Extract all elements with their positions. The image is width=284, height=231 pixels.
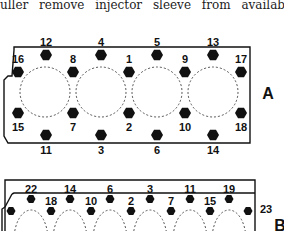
bolt-sequence-number: 17 (235, 53, 247, 65)
bolt-sequence-number: 14 (207, 144, 220, 156)
bolt-sequence-number: 23 (260, 203, 272, 215)
bolt-icon (207, 130, 219, 140)
bolt-icon (151, 130, 163, 140)
bolt-icon (244, 207, 253, 215)
cylinder-bore (20, 67, 70, 117)
bolt-sequence-number: 2 (128, 195, 134, 207)
bolt-icon (40, 130, 52, 140)
bolt-sequence-number: 11 (40, 144, 52, 156)
bolt-sequence-number: 18 (45, 195, 57, 207)
bolt-icon (87, 207, 96, 215)
cylinder-bore (188, 67, 238, 117)
bolt-icon (106, 195, 115, 203)
cylinder-bore (76, 67, 126, 117)
bolt-icon (127, 207, 136, 215)
bolt-icon (7, 207, 16, 215)
cylinder-bore (14, 210, 48, 231)
bolt-sequence-number: 5 (154, 36, 160, 48)
bolt-icon (12, 67, 24, 77)
bolt-sequence-number: 14 (64, 183, 77, 195)
bolt-sequence-number: 1 (126, 53, 132, 65)
bolt-sequence-number: 16 (12, 53, 24, 65)
bolt-icon (67, 108, 79, 118)
bolt-sequence-number: 18 (235, 121, 247, 133)
cylinder-head-bolt-sequence-diagram: 124513168191715721018113614 A 2214631119… (0, 0, 284, 231)
cylinder-bore (132, 67, 182, 117)
bolt-icon (146, 195, 155, 203)
bolt-sequence-number: 19 (223, 183, 235, 195)
head-b-bolts: 22146311191810271523 (7, 183, 273, 215)
bolt-sequence-number: 13 (207, 36, 219, 48)
bolt-sequence-number: 22 (25, 183, 37, 195)
bolt-sequence-number: 9 (182, 53, 188, 65)
bolt-icon (167, 207, 176, 215)
bolt-icon (123, 108, 135, 118)
bolt-sequence-number: 10 (85, 195, 97, 207)
bolt-sequence-number: 3 (147, 183, 153, 195)
bolt-icon (95, 50, 107, 60)
bolt-icon (66, 195, 75, 203)
cylinder-bore (53, 210, 87, 231)
bolt-icon (207, 50, 219, 60)
bolt-icon (47, 207, 56, 215)
diagram-a-label: A (262, 85, 274, 102)
bolt-icon (151, 50, 163, 60)
bolt-icon (27, 195, 36, 203)
bolt-sequence-number: 7 (70, 121, 76, 133)
bolt-sequence-number: 11 (184, 183, 196, 195)
bolt-sequence-number: 12 (40, 36, 52, 48)
cylinder-bore (133, 210, 167, 231)
bolt-icon (179, 67, 191, 77)
bolt-sequence-number: 15 (204, 195, 216, 207)
bolt-sequence-number: 15 (12, 121, 24, 133)
bolt-icon (235, 108, 247, 118)
bolt-icon (235, 67, 247, 77)
bolt-icon (206, 207, 215, 215)
bolt-sequence-number: 8 (70, 53, 76, 65)
bolt-icon (123, 67, 135, 77)
bolt-icon (186, 195, 195, 203)
bolt-icon (12, 108, 24, 118)
cylinder-bore (173, 210, 207, 231)
bolt-icon (179, 108, 191, 118)
bolt-sequence-number: 2 (126, 121, 132, 133)
bolt-icon (67, 67, 79, 77)
diagram-b-label: B (274, 217, 284, 231)
bolt-sequence-number: 6 (154, 144, 160, 156)
bolt-sequence-number: 6 (107, 183, 113, 195)
bolt-sequence-number: 7 (168, 195, 174, 207)
bolt-icon (40, 50, 52, 60)
bolt-sequence-number: 3 (98, 144, 104, 156)
bolt-icon (225, 195, 234, 203)
bolt-icon (95, 130, 107, 140)
head-a-bolts: 124513168191715721018113614 (12, 36, 247, 156)
bolt-sequence-number: 4 (98, 36, 105, 48)
cylinder-bore (93, 210, 127, 231)
bolt-sequence-number: 10 (179, 121, 191, 133)
cylinder-bore (212, 210, 246, 231)
